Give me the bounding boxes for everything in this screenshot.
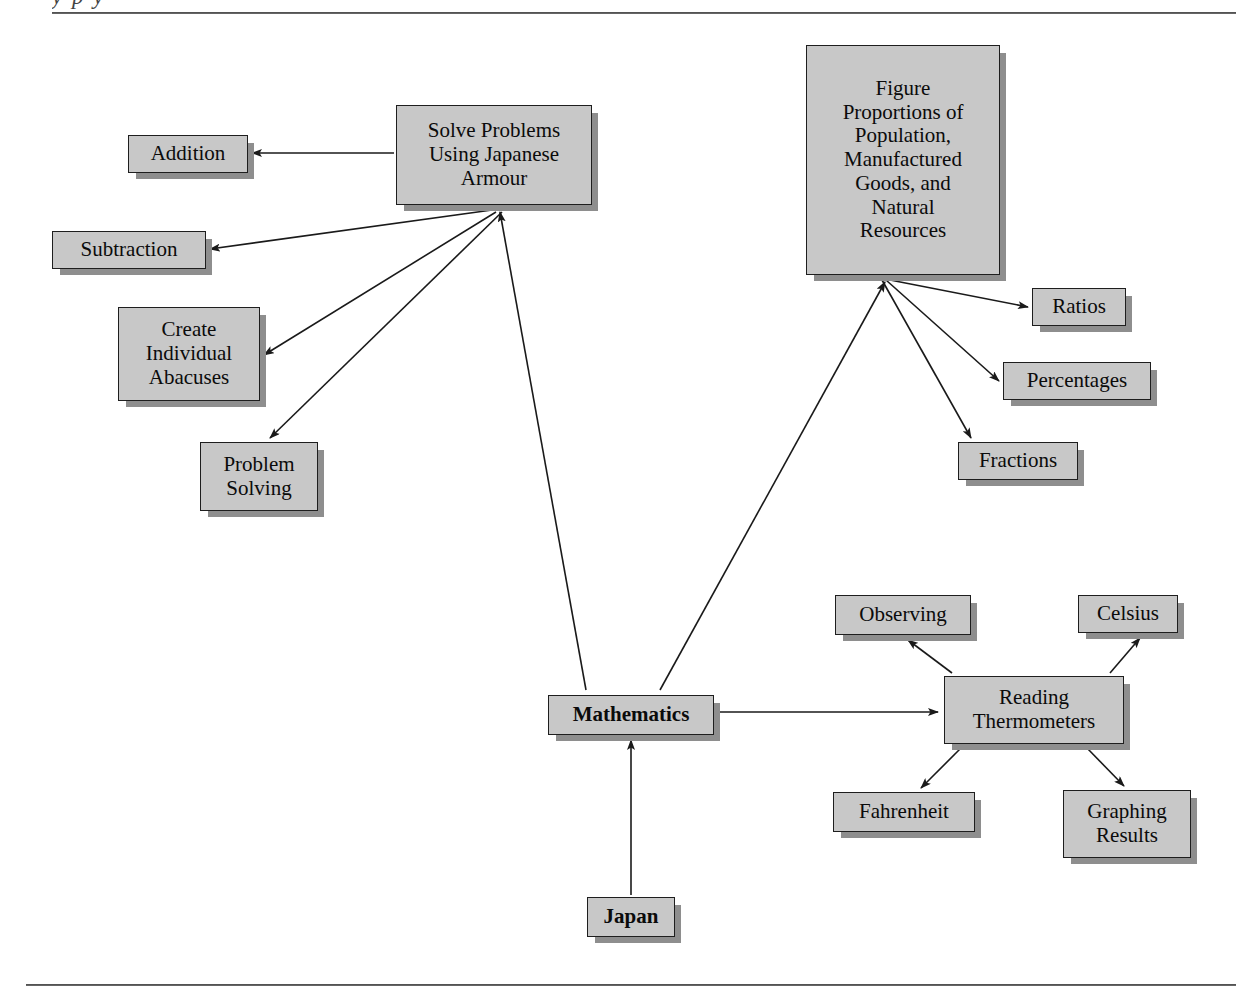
node-percentages[interactable]: Percentages [1003,362,1151,400]
edge-reading-thermometers-to-celsius [1110,638,1140,673]
node-graphing-results[interactable]: Graphing Results [1063,790,1191,858]
node-solve-problems[interactable]: Solve Problems Using Japanese Armour [396,105,592,205]
edge-mathematics-to-solve-problems [500,212,586,690]
edge-solve-problems-to-subtraction [210,210,492,249]
node-ratios[interactable]: Ratios [1032,288,1126,326]
node-problem-solving[interactable]: Problem Solving [200,442,318,511]
node-celsius[interactable]: Celsius [1078,595,1178,633]
edge-reading-thermometers-to-fahrenheit [921,747,962,788]
edge-figure-proportions-to-percentages [886,280,999,381]
node-figure-proportions[interactable]: Figure Proportions of Population, Manufa… [806,45,1000,275]
node-observing[interactable]: Observing [835,595,971,635]
node-addition[interactable]: Addition [128,135,248,173]
node-mathematics[interactable]: Mathematics [548,695,714,735]
edge-reading-thermometers-to-observing [908,640,952,673]
node-subtraction[interactable]: Subtraction [52,231,206,269]
edge-reading-thermometers-to-graphing-results [1086,747,1124,786]
node-reading-thermometers[interactable]: Reading Thermometers [944,676,1124,744]
node-fractions[interactable]: Fractions [958,442,1078,480]
edge-solve-problems-to-create-abacuses [264,212,496,355]
edge-solve-problems-to-problem-solving [270,212,502,438]
node-create-abacuses[interactable]: Create Individual Abacuses [118,307,260,401]
edge-figure-proportions-to-fractions [882,280,971,438]
concept-map-page: y p y Solve Problems Using Japanese Armo… [0,0,1252,1004]
node-japan[interactable]: Japan [587,897,675,937]
node-fahrenheit[interactable]: Fahrenheit [833,792,975,832]
